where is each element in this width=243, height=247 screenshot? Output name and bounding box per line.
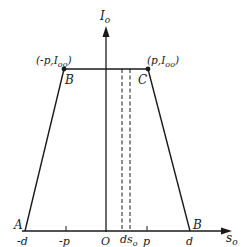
y-axis-arrow-icon	[103, 26, 110, 37]
vertex-c-dot	[146, 67, 151, 72]
vertex-label-b-left: B	[64, 73, 74, 87]
tick-label-ds: dso	[120, 233, 138, 247]
tick-label-neg-p: -p	[59, 235, 70, 247]
tick-label-origin: O	[101, 235, 110, 247]
vertex-label-a: A	[13, 218, 23, 232]
edge-c-b	[148, 69, 190, 231]
point-label-neg-p-ioo: (-p,Ioo)	[36, 54, 72, 69]
edge-a-b	[25, 69, 64, 231]
vertex-label-c: C	[138, 73, 147, 87]
trapezoid-diagram: Io so (-p,Ioo) (p,Ioo) B C A B -d -p O d…	[0, 0, 243, 247]
point-label-p-ioo: (p,Ioo)	[147, 54, 179, 69]
vertex-label-b-right: B	[192, 218, 202, 232]
x-axis-label: so	[226, 231, 238, 247]
y-axis-label: Io	[99, 9, 111, 25]
tick-label-neg-d: -d	[17, 235, 28, 247]
tick-label-d: d	[186, 235, 193, 247]
tick-label-p: p	[143, 235, 150, 247]
